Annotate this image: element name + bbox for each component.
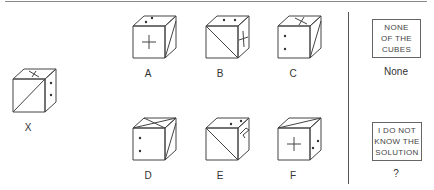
cube-d-drawing-icon	[132, 117, 182, 167]
none-line-3: CUBES	[373, 44, 420, 55]
cube-a-drawing-icon	[132, 15, 182, 65]
none-line-1: NONE	[373, 22, 420, 33]
option-e[interactable]	[205, 117, 255, 167]
top-border	[5, 1, 427, 2]
unknown-line-1: I DO NOT	[373, 125, 421, 136]
option-b-label: B	[210, 68, 230, 79]
option-c-label: C	[283, 68, 303, 79]
option-e-label: E	[210, 170, 230, 181]
option-b[interactable]	[205, 15, 255, 65]
cube-x-drawing-icon	[12, 66, 72, 126]
option-d-label: D	[138, 170, 158, 181]
cube-x	[12, 66, 72, 126]
cube-c-drawing-icon	[277, 15, 327, 65]
answers-divider	[348, 12, 349, 184]
none-caption: None	[366, 66, 426, 77]
cube-f-drawing-icon	[277, 117, 327, 167]
cube-e-drawing-icon	[205, 117, 255, 167]
cube-b-drawing-icon	[205, 15, 255, 65]
option-a-label: A	[138, 68, 158, 79]
option-d[interactable]	[132, 117, 182, 167]
unknown-line-2: KNOW THE	[373, 136, 421, 147]
unknown-line-3: SOLUTION	[373, 147, 421, 158]
option-a[interactable]	[132, 15, 182, 65]
option-f[interactable]	[277, 117, 327, 167]
option-f-label: F	[283, 170, 303, 181]
cube-x-label: X	[18, 122, 38, 133]
option-c[interactable]	[277, 15, 327, 65]
none-of-the-cubes-button[interactable]: NONE OF THE CUBES	[372, 19, 421, 58]
none-line-2: OF THE	[373, 33, 420, 44]
unknown-caption: ?	[366, 168, 426, 179]
i-do-not-know-button[interactable]: I DO NOT KNOW THE SOLUTION	[372, 122, 422, 161]
